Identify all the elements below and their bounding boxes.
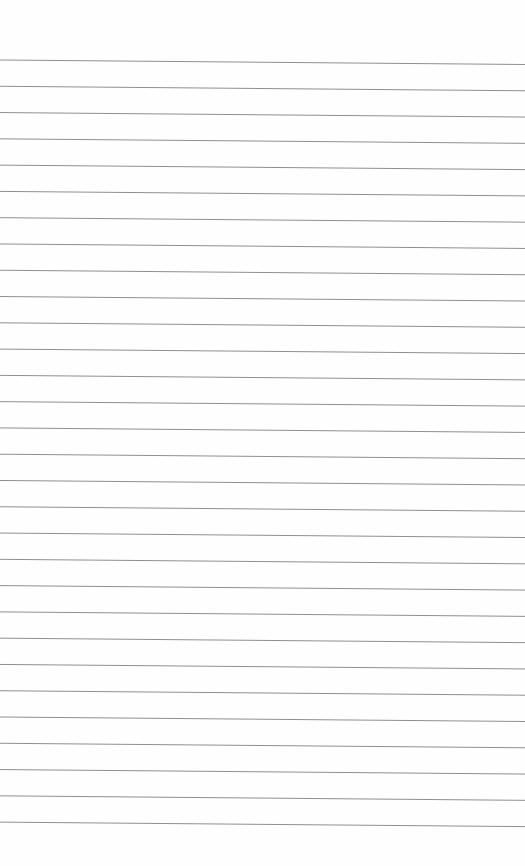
ruled-line: [0, 323, 525, 328]
ruled-line: [0, 743, 525, 748]
ruled-line: [0, 454, 525, 459]
ruled-line: [0, 428, 525, 433]
ruled-line: [0, 218, 525, 223]
ruled-line: [0, 507, 525, 512]
ruled-line: [0, 375, 525, 380]
ruled-line: [0, 559, 525, 564]
ruled-line: [0, 664, 525, 669]
ruled-line: [0, 270, 525, 275]
ruled-line: [0, 244, 525, 249]
lined-paper-sheet: [0, 0, 525, 866]
ruled-line: [0, 691, 525, 696]
ruled-line: [0, 717, 525, 722]
ruled-lines: [0, 0, 525, 866]
ruled-line: [0, 612, 525, 617]
ruled-line: [0, 191, 525, 196]
ruled-line: [0, 139, 525, 144]
ruled-line: [0, 533, 525, 538]
ruled-line: [0, 822, 525, 827]
ruled-line: [0, 165, 525, 170]
ruled-line: [0, 770, 525, 775]
ruled-line: [0, 586, 525, 591]
ruled-line: [0, 480, 525, 485]
ruled-line: [0, 60, 525, 65]
ruled-line: [0, 349, 525, 354]
ruled-line: [0, 113, 525, 118]
ruled-line: [0, 297, 525, 302]
ruled-line: [0, 796, 525, 801]
ruled-line: [0, 402, 525, 407]
ruled-line: [0, 638, 525, 643]
ruled-line: [0, 86, 525, 91]
